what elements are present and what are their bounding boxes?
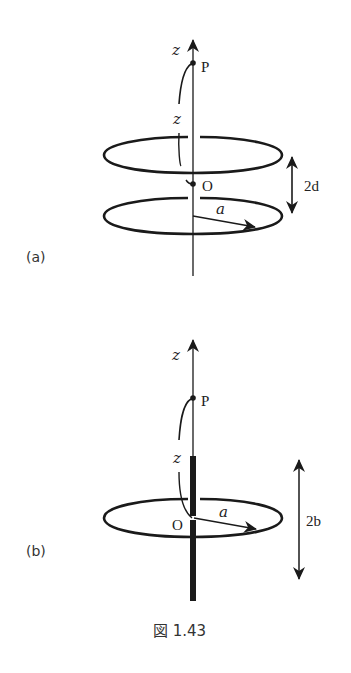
point-p-label-b: P [201,393,209,409]
panel-a: z P O z a 2d (a) [26,40,320,276]
origin-label-a: O [202,178,213,194]
distance-label-z-b: z [172,449,181,467]
distance-curve-b [179,399,191,440]
panel-label-a: (a) [26,249,46,265]
radius-label-a: a [216,200,225,218]
panel-b: z P z O a 2b (b) [26,340,321,601]
axis-label-z-b: z [171,346,180,364]
rod-mid-b [190,502,196,516]
figure-canvas: z P O z a 2d (a) z [0,0,351,673]
distance-curve-a [179,64,191,104]
length-label-b: 2b [306,513,321,529]
axis-label-z-a: z [171,41,180,59]
distance-label-z-a: z [172,110,181,128]
separation-label-a: 2d [304,178,320,194]
figure-caption: 図 1.43 [153,622,206,640]
rod-lower-b [190,520,196,601]
radius-label-b: a [219,503,228,521]
origin-label-b: O [172,517,183,533]
panel-label-b: (b) [26,543,46,559]
point-p-a [190,60,196,66]
rod-upper-b [190,456,196,502]
point-p-label-a: P [201,59,209,75]
point-p-b [190,395,196,401]
